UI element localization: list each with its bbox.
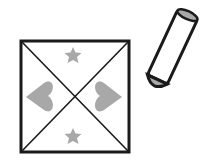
crayon-icon — [144, 7, 199, 91]
illustration — [0, 0, 208, 166]
